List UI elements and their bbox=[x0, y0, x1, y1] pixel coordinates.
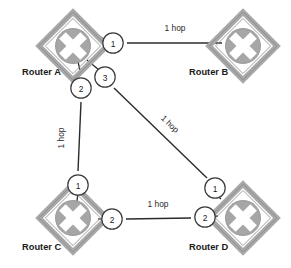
port-badge-router-d-1[interactable]: 1 bbox=[205, 178, 225, 198]
hop-label-router-a-router-c: 1 hop bbox=[56, 127, 66, 148]
port-badge-router-c-1[interactable]: 1 bbox=[68, 175, 88, 195]
hop-label-router-a-router-b: 1 hop bbox=[165, 23, 186, 33]
router-icon-group bbox=[39, 12, 277, 252]
port-badge-router-a-3[interactable]: 3 bbox=[95, 67, 115, 87]
router-c-label: Router C bbox=[22, 242, 62, 252]
stub-connector-group bbox=[77, 32, 221, 219]
diagram-canvas: 1 3 2 1 2 1 bbox=[0, 0, 291, 268]
port-number-router-d-1: 1 bbox=[213, 184, 218, 194]
link-router-a-router-c bbox=[78, 102, 81, 171]
port-number-router-a-3: 3 bbox=[103, 73, 108, 83]
port-number-router-c-1: 1 bbox=[76, 181, 81, 191]
port-badge-router-a-1[interactable]: 1 bbox=[103, 33, 123, 53]
network-diagram: 1 3 2 1 2 1 bbox=[0, 0, 291, 268]
port-badge-router-a-2[interactable]: 2 bbox=[71, 78, 91, 98]
router-b-label: Router B bbox=[189, 67, 229, 77]
port-number-router-a-1: 1 bbox=[111, 39, 116, 49]
router-d-label: Router D bbox=[189, 242, 229, 252]
port-badge-router-c-2[interactable]: 2 bbox=[102, 209, 122, 229]
hop-label-router-c-router-d: 1 hop bbox=[148, 199, 169, 209]
link-router-a-router-d bbox=[114, 88, 207, 178]
hop-label-router-a-router-d: 1 hop bbox=[159, 113, 181, 135]
port-number-router-d-2: 2 bbox=[203, 213, 208, 223]
port-badge-router-d-2[interactable]: 2 bbox=[195, 207, 215, 227]
router-a-label: Router A bbox=[22, 67, 61, 77]
link-router-c-router-d bbox=[126, 218, 191, 219]
port-number-router-c-2: 2 bbox=[110, 215, 115, 225]
port-number-router-a-2: 2 bbox=[79, 84, 84, 94]
